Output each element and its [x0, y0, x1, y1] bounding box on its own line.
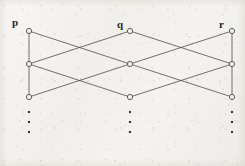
- continuation-dot-p-3: [28, 131, 30, 133]
- graph-node-q3: [127, 94, 132, 99]
- continuation-dot-q-1: [129, 111, 131, 113]
- continuation-dot-q-2: [129, 121, 131, 123]
- graph-node-p2: [26, 61, 31, 66]
- graph-node-r3: [229, 94, 234, 99]
- graph-node-q1: [127, 28, 132, 33]
- graph-node-p1: [26, 28, 31, 33]
- node-group: [26, 28, 234, 99]
- continuation-dot-p-2: [28, 121, 30, 123]
- label-p: p: [12, 17, 18, 28]
- diagram-canvas: pqr: [0, 0, 245, 166]
- continuation-dot-group: [28, 111, 233, 133]
- graph-node-p3: [26, 94, 31, 99]
- label-r: r: [219, 19, 224, 30]
- continuation-dot-p-1: [28, 111, 30, 113]
- graph-node-r1: [229, 28, 234, 33]
- continuation-dot-q-3: [129, 131, 131, 133]
- continuation-dot-r-1: [231, 111, 233, 113]
- label-q: q: [117, 19, 123, 30]
- continuation-dot-r-3: [231, 131, 233, 133]
- graph-node-q2: [127, 61, 132, 66]
- graph-node-r2: [229, 61, 234, 66]
- continuation-dot-r-2: [231, 121, 233, 123]
